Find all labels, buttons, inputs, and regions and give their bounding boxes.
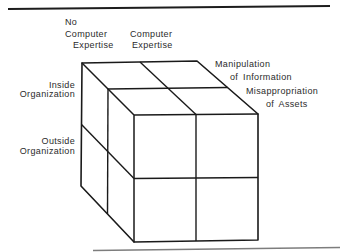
column-label-computer-expertise-line1: Computer [130, 29, 172, 40]
bottom-rule [93, 248, 340, 251]
row-label-inside-organization-line2: Organization [0, 89, 75, 100]
front-face-mid-horizontal-line [134, 178, 258, 179]
top-face-mid-depth-line [108, 88, 228, 90]
depth-label-manipulation-of-information-line1: Manipulation [215, 59, 270, 70]
depth-label-manipulation-of-information-line2: of Information [230, 72, 292, 83]
top-rule [8, 6, 330, 9]
depth-label-misappropriation-of-assets-line2: of Assets [266, 99, 308, 110]
column-label-no-computer-expertise-line2: Computer [65, 29, 107, 40]
column-label-no-computer-expertise-line1: No [65, 17, 77, 28]
column-label-no-computer-expertise-line3: Expertise [73, 40, 114, 51]
depth-label-misappropriation-of-assets-line1: Misappropriation [246, 86, 318, 97]
column-label-computer-expertise-line2: Expertise [132, 40, 173, 51]
row-label-outside-organization-line2: Organization [0, 146, 75, 157]
figure-canvas: No Computer Expertise Computer Expertise… [0, 0, 340, 252]
